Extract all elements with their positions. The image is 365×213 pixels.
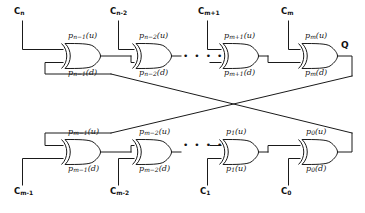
wire-output-q	[338, 56, 353, 76]
xor-gate-top-1-arc	[62, 44, 67, 69]
wire-gate-top-3-to-4	[268, 56, 300, 63]
xor-gate-top-2-body	[136, 44, 172, 69]
input-label-c-m: Cm	[281, 7, 294, 16]
xor-gate-top-4-arc	[299, 44, 304, 69]
xor-gate-bot-1-arc	[62, 140, 67, 165]
wire-gate-bot-1-to-2	[131, 146, 134, 153]
gate-label-bot-4-upper: p0(u)	[306, 128, 326, 136]
gate-label-bot-1-upper: pm−1(u)	[68, 128, 99, 136]
gate-label-bot-2-upper: pm−2(u)	[139, 128, 170, 136]
gate-label-top-3-upper: pm+1(u)	[224, 32, 255, 40]
wire-input-c-m-1p	[208, 21, 222, 50]
wire-input-c-m	[289, 21, 301, 50]
input-label-c-n: Cn	[14, 7, 25, 16]
gate-label-top-1-lower: pn−1(d)	[68, 69, 97, 77]
wire-input-c-m-2	[119, 159, 135, 186]
wire-input-c-m-1	[23, 159, 64, 186]
gate-label-top-1-upper: pn−1(u)	[68, 32, 97, 40]
gate-label-top-4-upper: pm(u)	[305, 32, 327, 40]
gate-label-top-2-lower: pn−2(d)	[139, 69, 168, 77]
xor-gate-bot-4-arc	[299, 140, 304, 165]
gate-label-bot-2-lower: pm−2(d)	[139, 165, 170, 173]
gate-label-bot-1-lower: pm−1(d)	[68, 165, 99, 173]
xor-gate-bot-2-body	[136, 140, 172, 165]
input-label-c-m-1: Cm-1	[14, 187, 33, 196]
wire-input-c-n	[23, 21, 64, 50]
wire-gate-bot-3-to-4	[268, 146, 300, 153]
gate-label-bot-3-upper: p1(u)	[226, 128, 246, 136]
xor-gate-top-3-body	[223, 44, 259, 69]
gate-label-top-3-lower: pm+1(d)	[224, 69, 255, 77]
input-label-c-m-2: Cm-2	[110, 187, 129, 196]
gate-label-top-4-lower: pm(d)	[305, 69, 327, 77]
wire-gate-bot-4-output-feedback	[338, 133, 353, 152]
xor-gate-top-4-body	[302, 44, 338, 69]
wire-input-c-0	[289, 159, 301, 186]
ellipsis-top-row: • • • •	[183, 52, 224, 61]
output-label-q: Q	[341, 41, 349, 50]
xor-gate-bot-3-body	[223, 140, 259, 165]
gate-label-bot-3-lower: p1(u)	[226, 165, 246, 173]
wire-gate-top-1-to-2	[131, 56, 134, 63]
wire-input-c-n-2	[119, 21, 135, 50]
ellipsis-bottom-row: • • • •	[183, 141, 224, 150]
input-label-c-0: C0	[281, 187, 291, 196]
xor-gate-bot-1-body	[65, 140, 101, 165]
gate-label-bot-4-lower: p0(d)	[306, 165, 326, 173]
gate-label-top-2-upper: pn−2(u)	[139, 32, 168, 40]
xor-gate-bot-4-body	[302, 140, 338, 165]
input-label-c-m-1p: Cm+1	[198, 7, 220, 16]
xor-gate-bot-2-arc	[133, 140, 138, 165]
xor-gate-top-1-body	[65, 44, 101, 69]
xor-chain-figure: Cn Cn-2 Cm+1 Cm pn−1(u) pn−1(d) pn−2(u) …	[0, 0, 365, 213]
input-label-c-1: C1	[200, 187, 210, 196]
input-label-c-n-2: Cn-2	[110, 7, 127, 16]
wire-input-c-1	[208, 159, 222, 186]
xor-gate-top-2-arc	[133, 44, 138, 69]
